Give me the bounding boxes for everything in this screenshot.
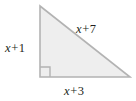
label-horizontal-leg-operator: + (70, 84, 77, 98)
triangle-polygon (40, 6, 130, 77)
label-vertical-leg-variable: x (5, 41, 11, 55)
label-horizontal-leg-variable: x (64, 84, 70, 98)
label-vertical-leg-constant: 1 (19, 41, 25, 55)
label-hypotenuse-variable: x (76, 22, 82, 36)
label-vertical-leg-operator: + (11, 41, 18, 55)
label-hypotenuse-operator: + (82, 22, 89, 36)
label-vertical-leg: x+1 (5, 42, 25, 55)
label-hypotenuse: x+7 (76, 23, 96, 36)
label-horizontal-leg: x+3 (64, 85, 84, 98)
label-hypotenuse-constant: 7 (90, 22, 96, 36)
right-triangle-figure: x+1 x+7 x+3 (0, 0, 136, 101)
label-horizontal-leg-constant: 3 (78, 84, 84, 98)
